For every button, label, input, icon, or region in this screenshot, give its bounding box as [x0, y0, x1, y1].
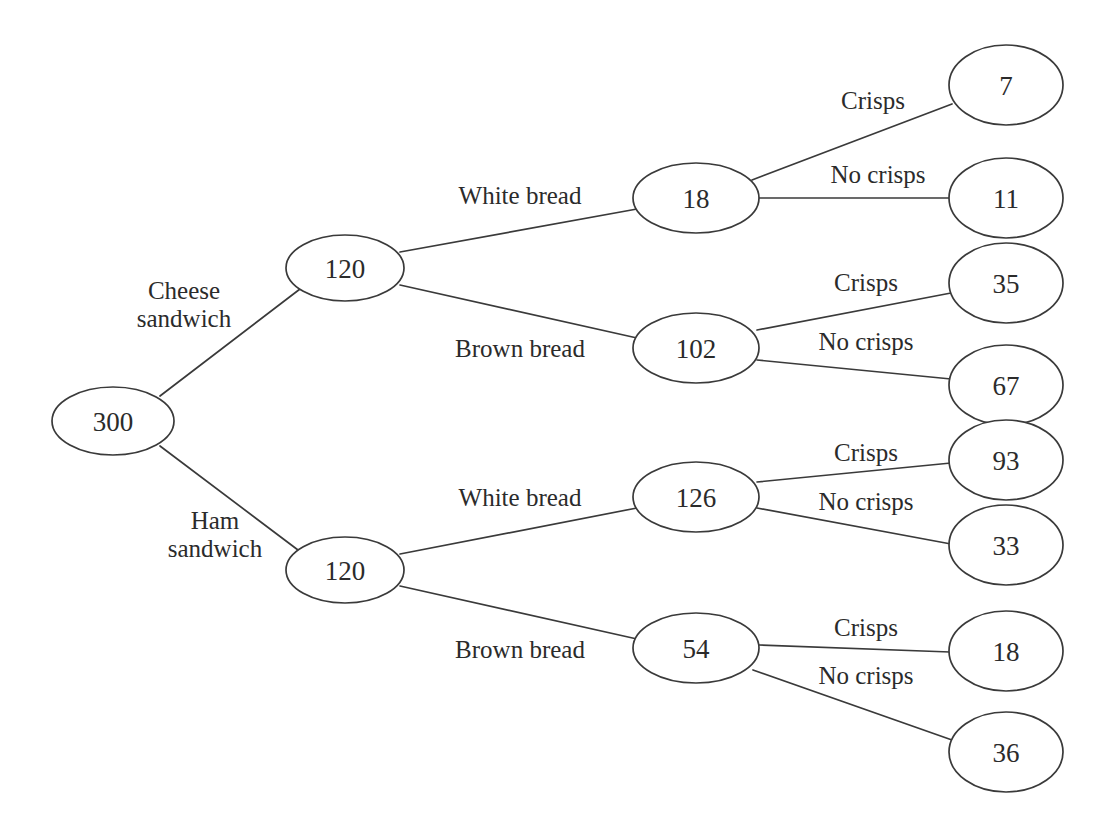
edge-label-lbl-cb-nocrisps: No crisps [818, 328, 913, 355]
tree-node-ham[interactable]: 120 [286, 537, 404, 603]
node-value-cb-nocrisps: 67 [993, 371, 1020, 401]
edge-label-lbl-cb-crisps: Crisps [834, 269, 898, 296]
node-value-ham: 120 [325, 556, 366, 586]
edge-label-lbl-hb-crisps: Crisps [834, 614, 898, 641]
edge-label-line: Cheese [148, 277, 220, 304]
edge-label-line: No crisps [818, 328, 913, 355]
tree-diagram-canvas: 3001201201810212654711356793331836 Chees… [0, 0, 1105, 824]
edge-label-lbl-hw-bread: White bread [459, 484, 582, 511]
tree-node-hw-crisps[interactable]: 93 [949, 420, 1063, 500]
tree-node-ham-white[interactable]: 126 [633, 462, 759, 532]
node-value-cheese: 120 [325, 254, 366, 284]
edge-label-line: sandwich [168, 535, 263, 562]
edge-label-lbl-cw-bread: White bread [459, 182, 582, 209]
tree-node-root[interactable]: 300 [52, 387, 174, 455]
node-value-hw-crisps: 93 [993, 446, 1020, 476]
edge-label-lbl-hw-nocrisps: No crisps [818, 488, 913, 515]
edge-label-lbl-cw-nocrisps: No crisps [830, 161, 925, 188]
edge-label-lbl-hb-bread: Brown bread [455, 636, 585, 663]
edge-label-line: sandwich [137, 305, 232, 332]
tree-edge-e-cb-nocrisps [757, 360, 951, 379]
edge-label-line: No crisps [818, 488, 913, 515]
tree-node-cb-crisps[interactable]: 35 [949, 243, 1063, 323]
tree-node-hw-nocrisps[interactable]: 33 [949, 505, 1063, 585]
edge-label-line: Ham [191, 507, 240, 534]
edge-label-lbl-hw-crisps: Crisps [834, 439, 898, 466]
tree-edge-e-hw-crisps [757, 463, 951, 482]
tree-node-hb-crisps[interactable]: 18 [949, 611, 1063, 691]
tree-edge-e-cb-crisps [757, 293, 951, 330]
edge-label-line: No crisps [818, 662, 913, 689]
tree-edge-e-hb-crisps [759, 645, 950, 652]
node-value-hb-nocrisps: 36 [993, 738, 1020, 768]
tree-edge-e-cheese-brown [400, 285, 637, 338]
edge-label-line: Brown bread [455, 636, 585, 663]
edge-label-lbl-hb-nocrisps: No crisps [818, 662, 913, 689]
edge-label-line: Crisps [834, 439, 898, 466]
node-value-hw-nocrisps: 33 [993, 531, 1020, 561]
tree-node-hb-nocrisps[interactable]: 36 [949, 712, 1063, 792]
node-value-cheese-white: 18 [683, 184, 710, 214]
edge-label-lbl-cb-bread: Brown bread [455, 335, 585, 362]
tree-node-cw-nocrisps[interactable]: 11 [949, 158, 1063, 238]
edge-label-line: Crisps [834, 614, 898, 641]
tree-node-cheese[interactable]: 120 [286, 235, 404, 301]
edge-label-lbl-cheese: Cheesesandwich [137, 277, 232, 332]
edge-label-line: No crisps [830, 161, 925, 188]
edge-label-line: Crisps [834, 269, 898, 296]
tree-node-cb-nocrisps[interactable]: 67 [949, 345, 1063, 425]
node-value-cw-nocrisps: 11 [993, 184, 1019, 214]
node-value-ham-brown: 54 [683, 634, 711, 664]
node-value-cb-crisps: 35 [993, 269, 1020, 299]
tree-node-ham-brown[interactable]: 54 [633, 613, 759, 683]
node-value-ham-white: 126 [676, 483, 717, 513]
tree-edge-e-cheese-white [400, 209, 637, 252]
edge-label-line: Crisps [841, 87, 905, 114]
edge-labels-layer: CheesesandwichHamsandwichWhite breadBrow… [137, 87, 926, 689]
edge-label-line: Brown bread [455, 335, 585, 362]
node-value-hb-crisps: 18 [993, 637, 1020, 667]
tree-edge-e-ham-white [400, 508, 637, 554]
node-value-cw-crisps: 7 [999, 71, 1013, 101]
edge-label-line: White bread [459, 484, 582, 511]
edge-label-lbl-cw-crisps: Crisps [841, 87, 905, 114]
node-value-root: 300 [93, 407, 134, 437]
tree-node-cheese-brown[interactable]: 102 [633, 313, 759, 383]
node-value-cheese-brown: 102 [676, 334, 717, 364]
tree-node-cheese-white[interactable]: 18 [633, 163, 759, 233]
tree-edge-e-ham-brown [400, 586, 637, 639]
tree-diagram-svg: 3001201201810212654711356793331836 Chees… [0, 0, 1105, 824]
edge-label-lbl-ham: Hamsandwich [168, 507, 263, 562]
tree-node-cw-crisps[interactable]: 7 [949, 45, 1063, 125]
edge-label-line: White bread [459, 182, 582, 209]
